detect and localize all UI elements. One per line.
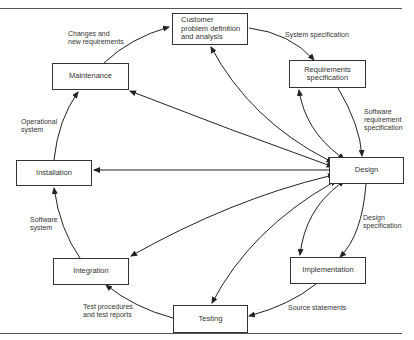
node-maintenance-label: Maintenance bbox=[69, 72, 112, 81]
node-testing: Testing bbox=[173, 305, 248, 333]
label-design-specification: Design specification bbox=[363, 214, 402, 230]
node-implementation-label: Implementation bbox=[302, 266, 353, 275]
label-system-specification: System specification bbox=[285, 31, 349, 39]
node-customer-label: Customer problem definition and analysis bbox=[181, 16, 240, 42]
arrow-installation-to-maintenance bbox=[54, 92, 78, 160]
node-requirements-label: Requirements specification bbox=[304, 66, 351, 83]
node-installation-label: Installation bbox=[36, 169, 72, 178]
lifecycle-diagram: Customer problem definition and analysis… bbox=[0, 0, 414, 340]
node-implementation: Implementation bbox=[290, 257, 366, 284]
node-maintenance: Maintenance bbox=[52, 63, 129, 90]
label-source-statements: Source statements bbox=[288, 304, 346, 312]
label-test-procedures-and-test-reports: Test procedures and test reports bbox=[83, 303, 133, 319]
arrow-requirements-to-design bbox=[338, 88, 362, 156]
arrow-design-requirements bbox=[299, 90, 340, 156]
label-software-requirement-specification: Software requirement specification bbox=[364, 108, 403, 132]
node-integration: Integration bbox=[53, 258, 129, 285]
node-testing-label: Testing bbox=[199, 315, 223, 324]
arrow-integration-to-installation bbox=[54, 188, 80, 258]
node-design: Design bbox=[329, 157, 404, 184]
label-software-system: Software system bbox=[30, 216, 58, 232]
node-installation: Installation bbox=[16, 160, 92, 186]
arrow-design-integration bbox=[131, 176, 329, 256]
node-requirements: Requirements specification bbox=[289, 60, 366, 88]
label-changes-and-new-requirements: Changes and new requirements bbox=[68, 30, 124, 46]
node-customer-problem: Customer problem definition and analysis bbox=[172, 13, 248, 45]
node-integration-label: Integration bbox=[73, 267, 108, 276]
label-operational-system: Operational system bbox=[21, 118, 57, 134]
arrow-design-implementation bbox=[300, 184, 340, 255]
arrow-design-maintenance bbox=[130, 91, 328, 165]
node-design-label: Design bbox=[355, 166, 378, 175]
